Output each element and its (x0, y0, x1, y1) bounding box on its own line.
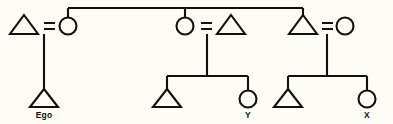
right-children-group: X (274, 89, 376, 120)
person-x-label: X (364, 110, 370, 120)
ego-label: Ego (36, 110, 53, 120)
female-symbol-right-wife (337, 18, 354, 35)
couple-right-group (288, 15, 367, 91)
female-symbol-left-mother (60, 18, 77, 35)
kinship-diagram: Ego Y (0, 0, 393, 124)
kinship-diagram-canvas: Ego Y (0, 0, 393, 124)
male-symbol-middle-husband (217, 15, 245, 34)
couple-left-group (10, 15, 77, 90)
male-symbol-right-son (274, 89, 302, 107)
male-symbol-left-father (10, 15, 38, 34)
male-symbol-ego (30, 89, 58, 107)
male-symbol-middle-son (153, 89, 181, 107)
female-symbol-x (359, 91, 376, 108)
person-y-label: Y (245, 110, 251, 120)
middle-children-group: Y (153, 89, 257, 120)
ego-group: Ego (30, 89, 58, 120)
female-symbol-y (240, 91, 257, 108)
couple-middle-group (167, 15, 248, 91)
female-symbol-middle-wife (177, 18, 194, 35)
male-symbol-right-husband (289, 15, 317, 34)
